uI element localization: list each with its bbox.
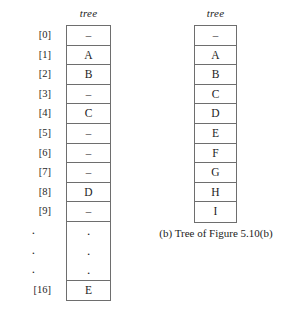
index-label: [3]: [0, 84, 58, 104]
array-cell-ellipsis: .: [67, 222, 110, 242]
array-cell: –: [67, 163, 110, 183]
index-label: [4]: [0, 103, 58, 123]
left-array-title: tree: [66, 7, 111, 19]
index-label: [7]: [0, 162, 58, 182]
array-cell: C: [195, 85, 236, 105]
array-cell: D: [67, 183, 110, 203]
index-label: [5]: [0, 123, 58, 143]
array-cell: I: [195, 202, 236, 222]
index-label: [6]: [0, 143, 58, 163]
index-label: [1]: [0, 45, 58, 65]
array-cell: E: [195, 124, 236, 144]
array-cell: C: [67, 104, 110, 124]
left-array-cells: – A B – C – – – D – . . . E: [66, 25, 111, 301]
array-cell: H: [195, 183, 236, 203]
array-cell: –: [67, 202, 110, 222]
array-cell: F: [195, 144, 236, 164]
array-cell: B: [67, 65, 110, 85]
array-representation-figure: tree [0] [1] [2] [3] [4] [5] [6] [7] [8]…: [0, 0, 292, 309]
array-cell-ellipsis: .: [67, 242, 110, 262]
left-array-panel: tree [0] [1] [2] [3] [4] [5] [6] [7] [8]…: [0, 0, 130, 309]
array-cell: –: [67, 144, 110, 164]
array-cell-ellipsis: .: [67, 261, 110, 281]
array-cell: D: [195, 104, 236, 124]
array-cell: –: [67, 124, 110, 144]
left-array-index-column: [0] [1] [2] [3] [4] [5] [6] [7] [8] [9] …: [0, 25, 58, 299]
array-cell: E: [67, 281, 110, 301]
right-array-title: tree: [194, 7, 237, 19]
array-cell: –: [195, 26, 236, 46]
array-cell: A: [67, 46, 110, 66]
array-cell: A: [195, 46, 236, 66]
index-ellipsis: .: [0, 260, 58, 280]
index-label: [16]: [0, 280, 58, 300]
right-array-cells: – A B C D E F G H I: [194, 25, 237, 223]
figure-caption: (b) Tree of Figure 5.10(b): [140, 227, 292, 239]
index-label: [8]: [0, 182, 58, 202]
array-cell: B: [195, 65, 236, 85]
index-label: [2]: [0, 64, 58, 84]
array-cell: G: [195, 163, 236, 183]
array-cell: –: [67, 85, 110, 105]
array-cell: –: [67, 26, 110, 46]
index-ellipsis: .: [0, 221, 58, 241]
index-label: [0]: [0, 25, 58, 45]
index-ellipsis: .: [0, 241, 58, 261]
index-label: [9]: [0, 201, 58, 221]
